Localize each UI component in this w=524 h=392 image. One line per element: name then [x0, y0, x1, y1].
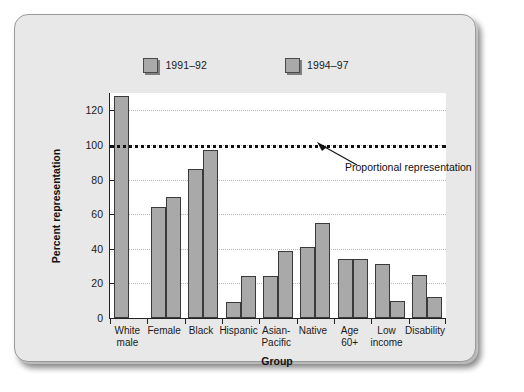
annotation-label: Proportional representation: [345, 161, 472, 173]
legend-item-1994-97: 1994–97: [285, 58, 349, 73]
bar-group: [297, 93, 334, 318]
bar[interactable]: [390, 301, 405, 318]
y-axis-tick-label: 40: [91, 243, 110, 255]
bar[interactable]: [114, 96, 129, 318]
legend-swatch-icon: [285, 58, 300, 73]
legend-label: 1991–92: [165, 59, 207, 71]
bar[interactable]: [188, 169, 203, 318]
legend-label: 1994–97: [307, 59, 349, 71]
x-axis-labels: WhitemaleFemaleBlackHispanicAsian-Pacifi…: [109, 325, 445, 348]
bar-group: [334, 93, 371, 318]
bar[interactable]: [166, 197, 181, 318]
bar[interactable]: [278, 251, 293, 319]
bar-group: [371, 93, 408, 318]
legend-swatch-icon: [143, 58, 158, 73]
proportional-representation-line: [110, 145, 446, 148]
x-axis-tick-label: Hispanic: [219, 325, 257, 348]
bar[interactable]: [226, 302, 241, 318]
x-axis-title: Group: [109, 355, 445, 367]
bar[interactable]: [375, 264, 390, 318]
x-axis-tick-label: Asian-Pacific: [258, 325, 295, 348]
y-axis-tick-label: 20: [91, 277, 110, 289]
bar[interactable]: [315, 223, 330, 318]
x-axis-tick-label: Native: [295, 325, 332, 348]
x-axis-tick-label: Black: [183, 325, 220, 348]
bar[interactable]: [151, 207, 166, 318]
bar[interactable]: [412, 275, 427, 318]
x-axis-tick-label: Female: [146, 325, 183, 348]
bar-group: [147, 93, 184, 318]
plot-area: 020406080100120: [109, 93, 446, 319]
bar[interactable]: [427, 297, 442, 318]
y-axis-tick-label: 120: [85, 104, 110, 116]
x-axis-tick-label: Whitemale: [109, 325, 146, 348]
y-axis-tick-label: 80: [91, 174, 110, 186]
y-axis-title: Percent representation: [49, 93, 63, 318]
bar-group: [222, 93, 259, 318]
x-axis-tick-label: Age 60+: [331, 325, 368, 348]
bar[interactable]: [353, 259, 368, 318]
bar[interactable]: [338, 259, 353, 318]
bar-group: [110, 93, 147, 318]
bar-group: [259, 93, 296, 318]
bar[interactable]: [300, 247, 315, 318]
y-axis-tick-label: 60: [91, 208, 110, 220]
bar[interactable]: [241, 276, 256, 318]
bar-groups: [110, 93, 446, 318]
bar[interactable]: [263, 276, 278, 318]
y-axis-tick-label: 0: [97, 312, 110, 324]
legend-item-1991-92: 1991–92: [143, 58, 207, 73]
bar[interactable]: [203, 150, 218, 318]
bar-group: [185, 93, 222, 318]
x-axis-tick-label: Lowincome: [368, 325, 405, 348]
chart-frame: 1991–92 1994–97 Percent representation 0…: [14, 14, 476, 362]
x-axis-tick-label: Disability: [405, 325, 445, 348]
chart-legend: 1991–92 1994–97: [15, 53, 477, 77]
y-axis-tick-label: 100: [85, 139, 110, 151]
bar-group: [409, 93, 446, 318]
